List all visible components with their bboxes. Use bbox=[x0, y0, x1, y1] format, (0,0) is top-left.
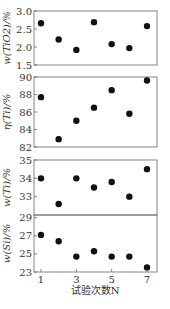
data-point bbox=[38, 175, 44, 181]
data-point bbox=[126, 45, 132, 51]
data-point bbox=[91, 19, 97, 25]
y-tick-label: 84 bbox=[19, 124, 32, 135]
panel-2: 8284868890η(Ti)/% bbox=[1, 72, 157, 153]
data-point bbox=[38, 20, 44, 26]
panel-frame bbox=[34, 11, 157, 65]
y-tick-label: 82 bbox=[19, 142, 32, 153]
x-tick-label: 5 bbox=[108, 274, 114, 285]
data-point bbox=[108, 253, 114, 259]
x-tick-label: 3 bbox=[73, 274, 79, 285]
y-axis-label: w(Si)/% bbox=[1, 224, 12, 263]
data-point bbox=[55, 136, 61, 142]
data-point bbox=[55, 36, 61, 42]
y-tick-label: 2.0 bbox=[16, 42, 32, 53]
y-axis-label: η(Ti)/% bbox=[1, 94, 12, 131]
data-point bbox=[144, 23, 150, 29]
data-point bbox=[91, 248, 97, 254]
panels: 1.52.02.53.0w(TiO2)/%8284868890η(Ti)/%33… bbox=[1, 6, 157, 278]
y-tick-label: 1.5 bbox=[16, 60, 32, 71]
data-point bbox=[73, 118, 79, 124]
y-tick-label: 25 bbox=[19, 248, 32, 259]
y-tick-label: 27 bbox=[19, 230, 32, 241]
multi-panel-scatter-chart: 1.52.02.53.0w(TiO2)/%8284868890η(Ti)/%33… bbox=[0, 0, 170, 309]
y-tick-label: 34 bbox=[19, 173, 32, 184]
y-axis-label: w(TiO2)/% bbox=[1, 11, 12, 65]
data-point bbox=[126, 253, 132, 259]
x-tick-label: 1 bbox=[38, 274, 44, 285]
y-tick-label: 2.5 bbox=[16, 24, 32, 35]
y-tick-label: 86 bbox=[19, 107, 32, 118]
data-point bbox=[73, 175, 79, 181]
data-point bbox=[126, 111, 132, 117]
data-point bbox=[38, 94, 44, 100]
panel-frame bbox=[34, 215, 157, 272]
y-tick-label: 90 bbox=[19, 72, 32, 83]
data-point bbox=[38, 232, 44, 238]
data-point bbox=[108, 179, 114, 185]
data-point bbox=[126, 193, 132, 199]
y-tick-label: 29 bbox=[19, 212, 32, 223]
y-tick-label: 35 bbox=[19, 155, 32, 166]
data-point bbox=[108, 87, 114, 93]
panel-frame bbox=[34, 77, 157, 147]
y-tick-label: 33 bbox=[19, 191, 32, 202]
y-axis-label: w(Ti)/% bbox=[1, 168, 12, 207]
x-axis: 1357 bbox=[38, 269, 150, 285]
data-point bbox=[108, 41, 114, 47]
data-point bbox=[91, 104, 97, 110]
y-tick-label: 88 bbox=[19, 89, 32, 100]
x-axis-label: 试验次数N bbox=[71, 284, 120, 296]
data-point bbox=[55, 238, 61, 244]
panel-1: 1.52.02.53.0w(TiO2)/% bbox=[1, 6, 157, 71]
data-point bbox=[91, 184, 97, 190]
data-point bbox=[73, 253, 79, 259]
panel-4: 23252729w(Si)/% bbox=[1, 212, 157, 277]
data-point bbox=[55, 201, 61, 207]
data-point bbox=[144, 166, 150, 172]
x-tick-label: 7 bbox=[144, 274, 150, 285]
y-tick-label: 23 bbox=[19, 267, 32, 278]
data-point bbox=[144, 77, 150, 83]
panel-3: 333435w(Ti)/% bbox=[1, 155, 157, 216]
y-tick-label: 3.0 bbox=[16, 6, 32, 17]
data-point bbox=[73, 47, 79, 53]
